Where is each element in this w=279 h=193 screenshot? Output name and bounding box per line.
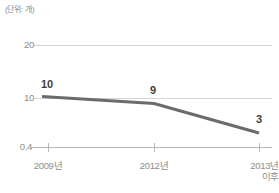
line-chart: (단위: 개) 20 10 0.4 2009년 2012년 2013년 이후 1… [0, 0, 279, 193]
data-point-label-2009: 10 [34, 78, 60, 90]
x-axis-tick-2013: 2013년 이후 [229, 160, 279, 182]
x-axis-tick-2013-line2: 이후 [229, 171, 279, 182]
data-point-label-2012: 9 [140, 84, 166, 96]
data-point-label-2013: 3 [246, 113, 272, 125]
y-axis-tick-20: 20 [8, 39, 34, 50]
y-axis-tick-10: 10 [8, 92, 34, 103]
data-series-line [42, 97, 259, 134]
x-axis-tick-2009: 2009년 [18, 160, 78, 171]
x-axis-tick-2012: 2012년 [124, 160, 184, 171]
y-axis-tick-04: 0.4 [6, 141, 32, 152]
x-axis-tick-2013-line1: 2013년 [250, 160, 279, 171]
